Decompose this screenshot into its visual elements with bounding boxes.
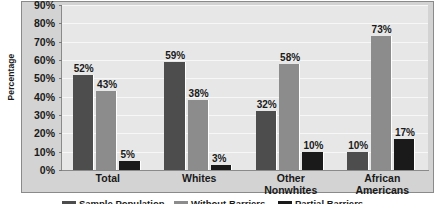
bar-value-label: 32% bbox=[257, 99, 277, 110]
y-tick-mark bbox=[59, 42, 62, 43]
category-label: African Americans bbox=[337, 173, 429, 196]
bar-value-label: 10% bbox=[303, 140, 323, 151]
bar bbox=[211, 165, 232, 171]
bar-value-label: 58% bbox=[280, 52, 300, 63]
category-label: Whites bbox=[154, 173, 246, 185]
bar bbox=[394, 139, 415, 170]
bar-value-label: 43% bbox=[97, 79, 117, 90]
y-tick-mark bbox=[59, 115, 62, 116]
bar bbox=[279, 64, 300, 170]
bar bbox=[371, 36, 392, 170]
legend-item: Without Barriers bbox=[174, 197, 265, 204]
legend-label: Without Barriers bbox=[191, 198, 265, 204]
legend-swatch bbox=[62, 201, 76, 204]
legend-swatch bbox=[174, 201, 188, 204]
x-axis-line bbox=[61, 170, 429, 171]
legend-item: Sample Population bbox=[62, 197, 165, 204]
gridline bbox=[62, 5, 428, 6]
bar bbox=[119, 161, 140, 170]
bar bbox=[96, 91, 117, 170]
bar bbox=[73, 75, 94, 170]
bar-value-label: 38% bbox=[189, 88, 209, 99]
y-tick-label: 0% bbox=[17, 164, 55, 176]
bar-value-label: 73% bbox=[372, 24, 392, 35]
bar-value-label: 5% bbox=[120, 149, 134, 160]
legend-label: Partial Barriers bbox=[295, 198, 363, 204]
bar bbox=[164, 62, 185, 170]
y-tick-mark bbox=[59, 78, 62, 79]
legend-item: Partial Barriers bbox=[278, 197, 363, 204]
y-tick-label: 70% bbox=[17, 36, 55, 48]
bar-chart-figure: Percentage 0%10%20%30%40%50%60%70%80%90%… bbox=[0, 0, 445, 204]
y-tick-mark bbox=[59, 152, 62, 153]
category-label: Total bbox=[62, 173, 154, 185]
y-axis-title: Percentage bbox=[6, 39, 16, 115]
y-tick-mark bbox=[59, 60, 62, 61]
bar-value-label: 52% bbox=[74, 63, 94, 74]
bar-value-label: 59% bbox=[165, 50, 185, 61]
bar bbox=[256, 111, 277, 170]
bar-value-label: 3% bbox=[212, 153, 226, 164]
y-tick-label: 80% bbox=[17, 17, 55, 29]
legend-swatch bbox=[278, 201, 292, 204]
chart-legend: Sample PopulationWithout BarriersPartial… bbox=[62, 197, 392, 204]
y-tick-label: 10% bbox=[17, 146, 55, 158]
y-tick-label: 40% bbox=[17, 91, 55, 103]
bar-value-label: 10% bbox=[348, 140, 368, 151]
y-tick-mark bbox=[59, 23, 62, 24]
bar-value-label: 17% bbox=[395, 127, 415, 138]
y-tick-mark bbox=[59, 170, 62, 171]
bar bbox=[302, 152, 323, 170]
y-tick-mark bbox=[59, 5, 62, 6]
y-tick-label: 20% bbox=[17, 127, 55, 139]
y-tick-mark bbox=[59, 97, 62, 98]
y-tick-mark bbox=[59, 133, 62, 134]
category-label: Other Nonwhites bbox=[245, 173, 337, 196]
bar bbox=[347, 152, 368, 170]
legend-label: Sample Population bbox=[79, 198, 165, 204]
y-axis-line bbox=[61, 5, 62, 171]
y-tick-label: 90% bbox=[17, 0, 55, 11]
y-tick-label: 30% bbox=[17, 109, 55, 121]
y-tick-label: 60% bbox=[17, 54, 55, 66]
y-tick-label: 50% bbox=[17, 72, 55, 84]
bar bbox=[188, 100, 209, 170]
